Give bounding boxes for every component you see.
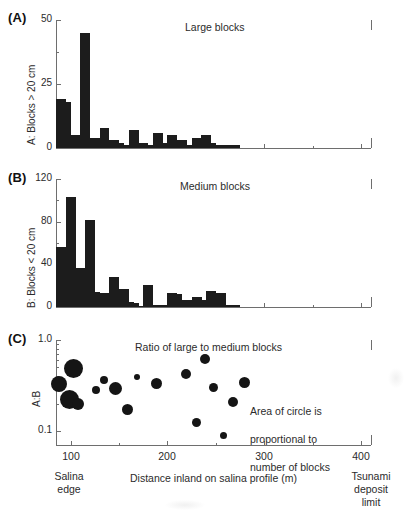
data-point (72, 398, 84, 410)
panel-c-ylabel: A:B (31, 391, 42, 407)
y-minor-tick (57, 344, 59, 345)
y-minor-tick (57, 349, 59, 350)
bar (235, 305, 240, 307)
x-axis-label: Distance inland on salina profile (m) (86, 472, 341, 484)
data-point (51, 376, 67, 392)
data-point (109, 382, 122, 395)
y-tick-label: 1.0 (12, 333, 52, 344)
data-point (151, 378, 162, 389)
data-point (100, 376, 108, 384)
salina-edge-line-2: edge (34, 483, 104, 496)
y-minor-tick (57, 52, 59, 53)
salina-edge-note: Salina edge (34, 470, 104, 496)
tsunami-limit-line-3: limit (338, 496, 404, 509)
y-minor-tick (57, 200, 59, 201)
y-tick (57, 307, 61, 308)
data-point (228, 397, 238, 407)
y-tick-label: 80 (12, 215, 52, 226)
scan-artifact-bottom (165, 500, 205, 510)
y-minor-tick (57, 367, 59, 368)
y-tick (57, 84, 61, 85)
panel-c: (C) Ratio of large to medium blocks A:B … (0, 322, 411, 517)
panel-a-plot-area: 02550 (56, 20, 371, 148)
tsunami-limit-line-2: deposit (338, 483, 404, 496)
bar (235, 145, 240, 148)
salina-edge-line-1: Salina (34, 470, 104, 483)
data-point (192, 418, 201, 427)
data-point (64, 359, 83, 378)
right-spine-stub-bottom (371, 435, 372, 445)
y-tick-label: 0 (12, 300, 52, 311)
y-tick (57, 179, 61, 180)
x-minor-tick (119, 443, 120, 445)
panel-b-plot-area: 04080120 (56, 179, 371, 307)
y-minor-tick (57, 354, 59, 355)
y-axis-line (56, 340, 57, 445)
x-tick (167, 441, 168, 445)
bar (148, 285, 153, 307)
data-point (122, 404, 133, 415)
data-point (134, 374, 140, 380)
x-minor-tick (216, 443, 217, 445)
x-tick (361, 441, 362, 445)
data-point (92, 386, 100, 394)
panel-a: (A) Large blocks A: Blocks > 20 cm 02550 (0, 0, 411, 160)
x-axis-line (56, 148, 371, 149)
y-minor-tick (57, 404, 59, 405)
x-minor-tick (313, 146, 314, 148)
right-spine-stub (371, 20, 372, 30)
data-point (200, 354, 210, 364)
data-point (220, 432, 227, 439)
y-tick-label: 40 (12, 257, 52, 268)
y-tick (57, 148, 61, 149)
right-spine-stub (371, 179, 372, 189)
x-tick (361, 303, 362, 307)
y-tick-label: 25 (12, 77, 52, 88)
y-tick (57, 20, 61, 21)
x-tick (361, 144, 362, 148)
y-tick (57, 431, 61, 432)
data-point (181, 369, 191, 379)
x-tick (71, 441, 72, 445)
right-spine-stub (371, 340, 372, 350)
x-tick (264, 144, 265, 148)
x-tick-label: 100 (51, 450, 91, 462)
y-minor-tick (57, 243, 59, 244)
x-tick-label: 400 (341, 450, 381, 462)
figure-root: (A) Large blocks A: Blocks > 20 cm 02550… (0, 0, 411, 517)
y-tick-label: 0.1 (12, 424, 52, 435)
x-minor-tick (313, 305, 314, 307)
y-tick-label: 120 (12, 172, 52, 183)
y-minor-tick (57, 360, 59, 361)
area-note-line-2: proportional to (250, 432, 330, 446)
right-spine-stub-bottom (371, 138, 372, 148)
x-tick-label: 200 (147, 450, 187, 462)
tsunami-limit-line-1: Tsunami (338, 470, 404, 483)
y-tick (57, 340, 61, 341)
data-point (239, 377, 250, 388)
area-note-line-1: Area of circle is (250, 404, 330, 418)
right-spine-stub-bottom (371, 297, 372, 307)
data-point (209, 383, 218, 392)
x-tick (264, 303, 265, 307)
panel-b: (B) Medium blocks B: Blocks < 20 cm 0408… (0, 160, 411, 322)
scan-artifact-right (388, 368, 404, 388)
y-tick-label: 50 (12, 13, 52, 24)
bar (85, 33, 90, 148)
y-tick (57, 222, 61, 223)
x-axis-line (56, 307, 371, 308)
y-tick-label: 0 (12, 141, 52, 152)
tsunami-limit-note: Tsunami deposit limit (338, 470, 404, 509)
